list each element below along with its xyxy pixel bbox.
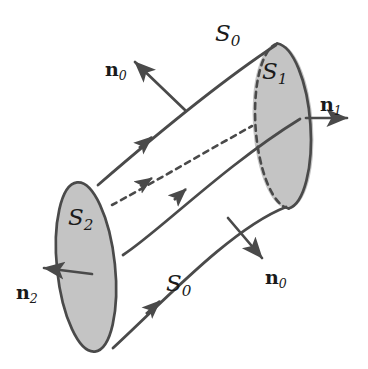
label-n0-top-letter: n [105, 58, 119, 80]
label-n1: n1 [320, 95, 342, 118]
label-s2-letter: S [68, 204, 84, 230]
label-s2-subscript: 2 [84, 216, 94, 234]
label-s0-top-subscript: 0 [231, 32, 241, 50]
label-s0-bottom: S0 [166, 272, 191, 299]
label-s0-top-letter: S [215, 20, 231, 46]
label-n2-letter: n [16, 281, 30, 303]
label-n0-bottom: n0 [265, 268, 287, 291]
label-n0-bottom-letter: n [265, 266, 279, 288]
label-n1-letter: n [320, 93, 334, 115]
label-s0-bottom-subscript: 0 [182, 282, 192, 300]
s0-bottom-boundary [113, 207, 286, 348]
label-n2-subscript: 2 [30, 291, 38, 306]
label-s1: S1 [262, 60, 287, 87]
label-s1-letter: S [262, 58, 278, 84]
middle-streamline-arrow [174, 189, 186, 200]
flux-tube-diagram [0, 0, 368, 369]
normal-n0-top-arrow [135, 62, 185, 110]
label-s1-subscript: 1 [278, 70, 288, 88]
s0-bottom-streamline-arrow [146, 301, 160, 314]
label-n0-top-subscript: 0 [119, 68, 127, 83]
label-s0-bottom-letter: S [166, 270, 182, 296]
label-n2: n2 [16, 283, 38, 306]
label-n0-bottom-subscript: 0 [279, 276, 287, 291]
label-s2: S2 [68, 206, 93, 233]
figure-canvas: S0 S0 S1 S2 n0 n0 n1 n2 [0, 0, 368, 369]
label-n0-top: n0 [105, 60, 127, 83]
label-s0-top: S0 [215, 22, 240, 49]
label-n1-subscript: 1 [334, 103, 342, 118]
